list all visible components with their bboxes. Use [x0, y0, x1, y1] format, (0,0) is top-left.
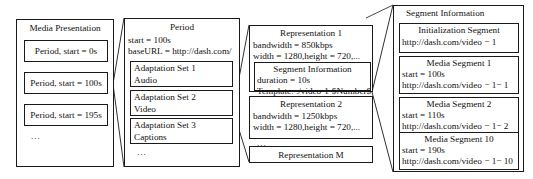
representation-m-title: Representation M — [278, 150, 344, 160]
representation-1-box[interactable]: Representation 1 bandwidth = 850kbps wid… — [249, 25, 373, 92]
media-segment-10-url: http://dash.com/video − 1− 10 — [400, 156, 518, 167]
period-item-3[interactable]: Period, start = 195s — [24, 104, 108, 126]
period-attr-start: start = 100s — [128, 35, 236, 46]
period-ellipsis: ... — [133, 148, 147, 156]
adaptation-set-1-type: Audio — [131, 74, 232, 86]
media-segment-2-box[interactable]: Media Segment 2 start = 110s http://dash… — [399, 97, 519, 135]
media-segment-2-title: Media Segment 2 — [400, 99, 518, 110]
period-item-3-label: Period, start = 195s — [25, 110, 107, 121]
media-segment-1-url: http://dash.com/video − 1− 1 — [400, 80, 518, 91]
adaptation-set-2[interactable]: Adaptation Set 2 Video — [130, 90, 233, 116]
segment-information-box: Segment Information Initialization Segme… — [393, 5, 524, 172]
adaptation-set-2-name: Adaptation Set 2 — [131, 91, 232, 103]
representation-m-box[interactable]: Representation M — [249, 146, 373, 163]
representation-1-resolution: width = 1280,height = 720,... — [253, 51, 369, 62]
period-box: Period start = 100s baseURL = http://das… — [124, 18, 240, 167]
representation-1-segment-template: Template: ./video-1-$Number$ — [255, 86, 370, 97]
media-segment-1-title: Media Segment 1 — [400, 58, 518, 69]
period-item-2[interactable]: Period, start = 100s — [24, 72, 108, 94]
period-item-2-label: Period, start = 100s — [25, 78, 107, 89]
period-attr-baseurl: baseURL = http://dash.com/ — [128, 46, 236, 57]
media-segment-2-start: start = 110s — [400, 110, 518, 121]
media-presentation-title: Media Presentation — [17, 23, 113, 34]
adaptation-set-3-type: Captions — [131, 131, 232, 143]
initialization-segment-box[interactable]: Initialization Segment http://dash.com/v… — [399, 23, 519, 53]
initialization-segment-url: http://dash.com/video − 1 — [400, 36, 518, 48]
adaptation-set-3[interactable]: Adaptation Set 3 Captions — [130, 118, 233, 144]
representation-2-bandwidth: bandwidth = 1250kbps — [253, 111, 369, 122]
representation-1-segment-information[interactable]: Segment Information duration = 10s Templ… — [254, 62, 371, 91]
representation-1-title: Representation 1 — [250, 28, 372, 39]
media-segment-1-box[interactable]: Media Segment 1 start = 100s http://dash… — [399, 56, 519, 94]
period-item-1[interactable]: Period, start = 0s — [24, 40, 108, 62]
media-presentation-ellipsis: ... — [27, 132, 41, 140]
initialization-segment-title: Initialization Segment — [400, 25, 518, 36]
media-presentation-box: Media Presentation Period, start = 0s Pe… — [16, 19, 114, 167]
media-segment-1-start: start = 100s — [400, 69, 518, 80]
representation-1-bandwidth: bandwidth = 850kbps — [253, 40, 369, 51]
representation-1-segment-duration: duration = 10s — [255, 75, 370, 86]
media-segment-2-url: http://dash.com/video − 1− 2 — [400, 121, 518, 132]
adaptation-set-2-type: Video — [131, 103, 232, 115]
representation-1-segment-information-title: Segment Information — [255, 64, 370, 75]
segment-information-title: Segment Information — [394, 8, 523, 19]
media-segment-10-title: Media Segment 10 — [400, 134, 518, 145]
adaptation-set-1-name: Adaptation Set 1 — [131, 62, 232, 74]
adaptation-set-1[interactable]: Adaptation Set 1 Audio — [130, 61, 233, 87]
representation-2-title: Representation 2 — [250, 99, 372, 110]
adaptation-set-3-name: Adaptation Set 3 — [131, 119, 232, 131]
dash-hierarchy-diagram: Media Presentation Period, start = 0s Pe… — [0, 0, 533, 179]
representation-2-box[interactable]: Representation 2 bandwidth = 1250kbps wi… — [249, 96, 373, 139]
period-item-1-label: Period, start = 0s — [25, 46, 107, 57]
media-segment-10-start: start = 190s — [400, 145, 518, 156]
representation-2-resolution: width = 1280,height = 720,... — [253, 122, 369, 133]
media-segment-10-box[interactable]: Media Segment 10 start = 190s http://das… — [399, 132, 519, 170]
period-title: Period — [125, 22, 239, 33]
